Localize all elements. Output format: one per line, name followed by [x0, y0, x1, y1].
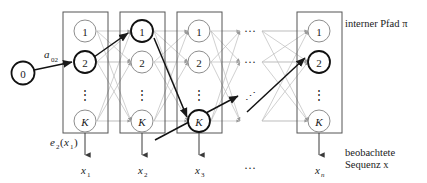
observed-label-x3-sub: 3 [201, 171, 205, 179]
observed-label-x1: x [80, 164, 86, 176]
emission-arrows [85, 133, 319, 155]
node-col1-vdots: ⋮ [79, 88, 91, 102]
emission-label-e2x1: e 2 ( x 1 ) [50, 136, 78, 151]
gap-ellipsis-row2: ··· [244, 55, 256, 69]
svg-text:): ) [74, 136, 78, 149]
observed-label-ellipsis: ··· [244, 161, 256, 175]
svg-text:x: x [63, 136, 69, 148]
state-nodes-col-n: 1 2 ⋮ K [308, 20, 330, 132]
node-coln-state2-label: 2 [316, 57, 322, 69]
node-col2-vdots: ⋮ [136, 88, 148, 102]
gap-ellipsis-row3: ⋰ [245, 90, 256, 102]
observed-label-x2: x [137, 164, 143, 176]
node-coln-state1-label: 1 [316, 26, 322, 38]
observed-label-xn-sub: n [321, 171, 325, 179]
state-nodes-col-3: 1 2 ⋮ K [188, 20, 210, 132]
node-col3-state2-label: 2 [196, 57, 202, 69]
observed-symbol-labels: x 1 x 2 x 3 ··· x n [80, 161, 325, 179]
observed-sequence-line-1: beobachtete [345, 147, 395, 158]
observed-label-x1-sub: 1 [87, 171, 91, 179]
node-col1-state2-label: 2 [82, 57, 88, 69]
path-seg-c2s1-to-c3sK [154, 38, 187, 117]
svg-text:02: 02 [51, 56, 59, 64]
svg-text:e: e [50, 136, 55, 148]
observed-label-x2-sub: 2 [144, 171, 148, 179]
transition-lattice-faint [97, 31, 308, 121]
observed-label-xn: x [314, 164, 320, 176]
observed-sequence-caption: beobachteteSequenz x [345, 147, 395, 171]
observed-sequence-line-2: Sequenz x [345, 159, 388, 170]
gap-ellipsis-group: ··· ··· ⋰ [244, 24, 256, 102]
node-coln-vdots: ⋮ [313, 88, 325, 102]
svg-text:a: a [44, 48, 50, 60]
observed-label-x3: x [194, 164, 200, 176]
node-col1-stateK-label: K [80, 116, 89, 128]
node-coln-stateK-label: K [314, 116, 323, 128]
figure-canvas: 1 2 ⋮ K 1 2 ⋮ K 1 2 ⋮ K [0, 0, 427, 183]
transition-label-a02: a 02 [44, 48, 59, 64]
state-nodes-col-1: 1 2 ⋮ K [74, 20, 96, 132]
gap-ellipsis-row1: ··· [244, 24, 256, 38]
node-col2-state1-label: 1 [139, 26, 145, 38]
state-nodes-col-2: 1 2 ⋮ K [131, 20, 153, 132]
node-col1-state1-label: 1 [82, 26, 88, 38]
node-col3-state1-label: 1 [196, 26, 202, 38]
internal-path-caption: interner Pfad π [345, 18, 407, 30]
node-col2-stateK-label: K [137, 116, 146, 128]
node-col3-vdots: ⋮ [193, 88, 205, 102]
node-col3-stateK-label: K [194, 116, 203, 128]
node-start-0-label: 0 [20, 68, 26, 80]
node-col2-state2-label: 2 [139, 57, 145, 69]
start-node-group: 0 [12, 62, 35, 85]
